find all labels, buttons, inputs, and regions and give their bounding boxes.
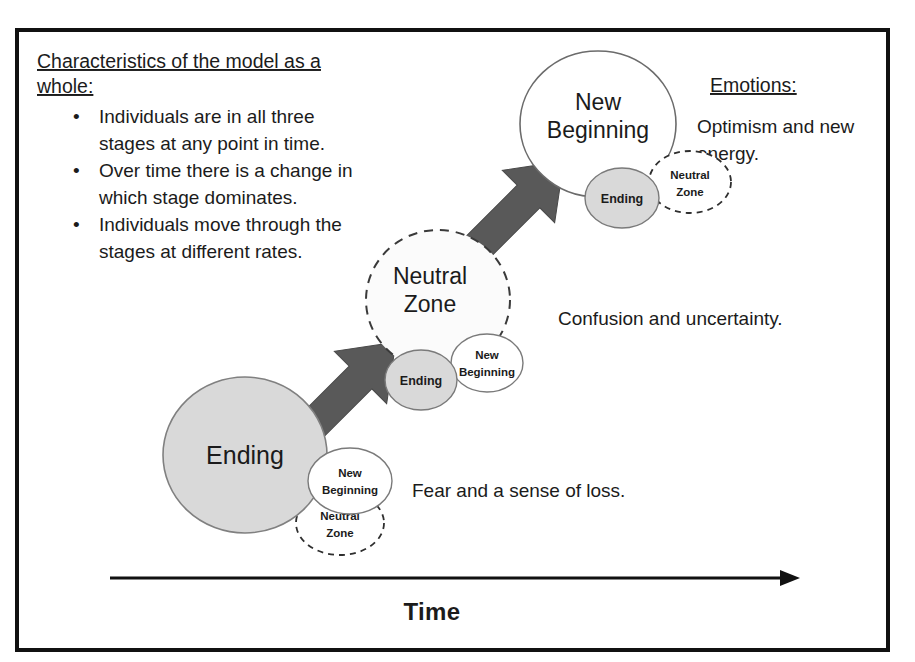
bullet-3-line-2: stages at different rates. — [99, 241, 303, 262]
stage-neutral-zone-satellite-new-beginning-label-line-2: Beginning — [459, 366, 515, 378]
bullet-3-line-1: Individuals move through the — [99, 214, 342, 235]
stage-neutral-zone-dominant-label-line-1: Neutral — [393, 263, 467, 289]
bullet-2-line-2: which stage dominates. — [98, 187, 298, 208]
stage-new-beginning-dominant-label-line-2: Beginning — [547, 117, 649, 143]
stage-ending-satellite-new-beginning-label-line-1: New — [338, 467, 362, 479]
stage-neutral-zone-dominant-label-line-2: Zone — [404, 291, 456, 317]
emotion-ending: Fear and a sense of loss. — [412, 480, 625, 501]
bullet-1-line-2: stages at any point in time. — [99, 133, 325, 154]
emotion-neutral-zone: Confusion and uncertainty. — [558, 308, 783, 329]
bullet-marker-icon: • — [73, 214, 80, 235]
emotion-new-beginning-line-1: Optimism and new — [697, 116, 855, 137]
stage-new-beginning-satellite-neutral-zone-label-line-2: Zone — [676, 186, 703, 198]
stage-neutral-zone-satellite-ending-label: Ending — [400, 374, 442, 388]
diagram-canvas: Characteristics of the model as a whole:… — [0, 0, 915, 662]
stage-new-beginning-dominant-label-line-1: New — [575, 89, 621, 115]
bullet-1-line-1: Individuals are in all three — [99, 106, 314, 127]
transition-model-diagram: Characteristics of the model as a whole:… — [0, 0, 915, 662]
stage-new-beginning-satellite-neutral-zone-circle — [649, 151, 731, 213]
bullet-marker-icon: • — [73, 106, 80, 127]
stage-neutral-zone-satellite-new-beginning-label-line-1: New — [475, 349, 499, 361]
bullet-marker-icon: • — [73, 160, 80, 181]
time-axis-label: Time — [404, 598, 461, 625]
notes-heading-line-2: whole: — [36, 75, 93, 97]
bullet-2-line-1: Over time there is a change in — [99, 160, 352, 181]
stage-ending-satellite-neutral-zone-label-line-2: Zone — [326, 527, 353, 539]
emotions-heading: Emotions: — [710, 74, 797, 96]
stage-ending-satellite-new-beginning-label-line-2: Beginning — [322, 484, 378, 496]
stage-ending-dominant-label: Ending — [206, 441, 284, 469]
stage-ending-satellite-new-beginning-circle — [308, 448, 392, 514]
notes-heading-line-1: Characteristics of the model as a — [37, 50, 321, 72]
stage-neutral-zone-satellite-new-beginning-circle — [451, 334, 523, 392]
stage-new-beginning-satellite-ending-label: Ending — [601, 192, 643, 206]
stage-new-beginning-satellite-neutral-zone-label-line-1: Neutral — [670, 169, 710, 181]
